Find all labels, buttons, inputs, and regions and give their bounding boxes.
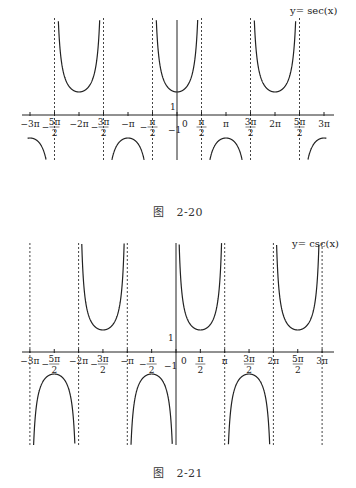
svg-text:2: 2 <box>295 365 301 375</box>
x-tick-label: 3π <box>97 354 109 364</box>
svg-text:2: 2 <box>197 365 203 375</box>
svg-text:−: − <box>139 359 147 369</box>
sec-chart-lower <box>0 0 356 220</box>
caption-prefix: 图 <box>153 467 165 480</box>
svg-text:−: − <box>90 359 98 369</box>
caption-number: 2-21 <box>176 467 203 480</box>
x-tick-label: 3π <box>316 356 328 366</box>
svg-text:−: − <box>41 359 49 369</box>
x-tick-label: −π <box>121 356 135 366</box>
csc-chart: y= csc(x) 1 −1 −3π−2π−π0π2π3π5π2−3π2−π2−… <box>0 235 356 455</box>
x-tick-label: π <box>197 354 203 364</box>
figure-caption-1: 图2-20 <box>0 203 356 219</box>
x-tick-label: 0 <box>181 356 187 366</box>
x-tick-label: −3π <box>20 356 39 366</box>
y-tick-neg1: −1 <box>164 361 177 371</box>
x-tick-label: π <box>149 354 155 364</box>
x-tick-label: 3π <box>243 354 255 364</box>
caption-prefix: 图 <box>153 206 165 219</box>
svg-text:2: 2 <box>149 365 155 375</box>
caption-number: 2-20 <box>176 206 203 219</box>
x-tick-label: −2π <box>69 356 88 366</box>
svg-text:2: 2 <box>51 365 57 375</box>
x-tick-label: π <box>222 356 228 366</box>
x-tick-label: 5π <box>48 354 60 364</box>
x-tick-label: 2π <box>268 356 280 366</box>
svg-text:2: 2 <box>100 365 106 375</box>
x-tick-label: 5π <box>292 354 304 364</box>
svg-text:2: 2 <box>246 365 252 375</box>
y-tick-1: 1 <box>168 333 174 343</box>
chart-title: y= csc(x) <box>291 238 339 249</box>
figure-caption-2: 图2-21 <box>0 464 356 480</box>
